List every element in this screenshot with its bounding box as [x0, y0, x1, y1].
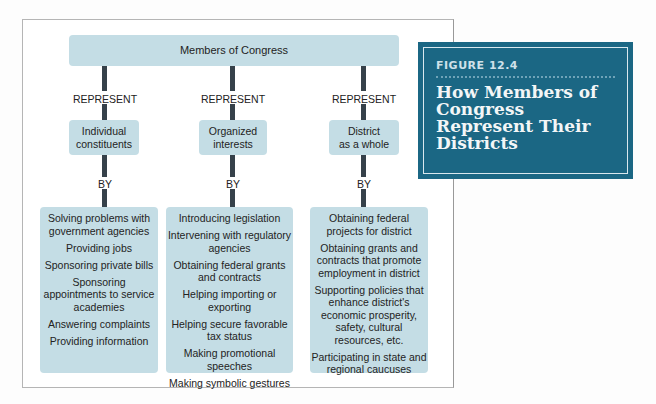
- method-item: Answering complaints: [40, 318, 158, 331]
- connector-bar: [361, 189, 366, 207]
- figure-title: How Members of Congress Represent Their …: [436, 84, 615, 152]
- methods-list-organized-interests: Introducing legislation Intervening with…: [166, 207, 293, 373]
- connector-bar: [102, 155, 107, 177]
- connector-bar: [230, 66, 235, 91]
- connector-bar: [361, 155, 366, 177]
- method-item: Solving problems with government agencie…: [40, 212, 158, 237]
- connector-bar: [102, 66, 107, 91]
- root-label: Members of Congress: [180, 44, 288, 57]
- group-node-individual-constituents: Individual constituents: [69, 120, 139, 155]
- method-item: Obtaining federal grants and contracts: [166, 259, 293, 284]
- methods-list-individual-constituents: Solving problems with government agencie…: [40, 207, 158, 373]
- group-label-line: constituents: [76, 138, 132, 151]
- connector-bar: [361, 66, 366, 91]
- method-item: Participating in state and regional cauc…: [310, 351, 428, 376]
- group-node-district-as-a-whole: District as a whole: [329, 120, 399, 155]
- connector-bar: [102, 189, 107, 207]
- root-node-members-of-congress: Members of Congress: [69, 35, 399, 66]
- method-item: Obtaining federal projects for district: [310, 212, 428, 237]
- connector-bar: [230, 104, 235, 120]
- method-item: Supporting policies that enhance distric…: [310, 284, 428, 347]
- connector-bar: [230, 189, 235, 207]
- group-label-line: as a whole: [339, 138, 389, 151]
- figure-number: FIGURE 12.4: [436, 59, 615, 78]
- method-item: Making symbolic gestures: [166, 377, 293, 390]
- method-item: Helping secure favorable tax status: [166, 318, 293, 343]
- method-item: Introducing legislation: [166, 212, 293, 225]
- method-item: Providing information: [40, 335, 158, 348]
- group-label-line: Organized: [209, 125, 257, 138]
- connector-bar: [102, 104, 107, 120]
- connector-bar: [361, 104, 366, 120]
- method-item: Sponsoring appointments to service acade…: [40, 276, 158, 314]
- figure-caption-inner: FIGURE 12.4 How Members of Congress Repr…: [423, 47, 628, 174]
- method-item: Obtaining grants and contracts that prom…: [310, 242, 428, 280]
- group-label-line: interests: [213, 138, 253, 151]
- method-item: Intervening with regulatory agencies: [166, 229, 293, 254]
- method-item: Sponsoring private bills: [40, 259, 158, 272]
- method-item: Providing jobs: [40, 242, 158, 255]
- connector-bar: [230, 155, 235, 177]
- method-item: Helping importing or exporting: [166, 288, 293, 313]
- group-label-line: Individual: [82, 125, 126, 138]
- methods-list-district-as-a-whole: Obtaining federal projects for district …: [310, 207, 428, 373]
- group-node-organized-interests: Organized interests: [199, 120, 267, 155]
- group-label-line: District: [348, 125, 380, 138]
- method-item: Making promotional speeches: [166, 347, 293, 372]
- figure-caption-box: FIGURE 12.4 How Members of Congress Repr…: [418, 42, 633, 179]
